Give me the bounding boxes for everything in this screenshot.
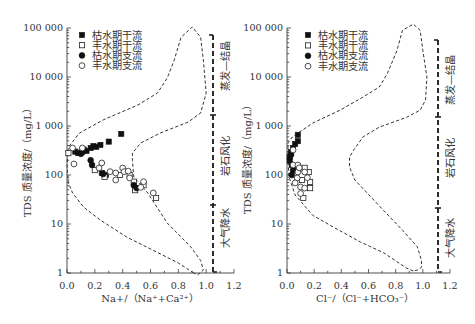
x-tick-label: 0.0 <box>279 280 294 291</box>
y-axis-label: TDS 质量浓度/（mg/L） <box>21 103 33 217</box>
zone-label-rock-weathering: 岩石风化 <box>219 136 231 176</box>
wet-season-tributary-point <box>113 170 119 176</box>
y-tick-label: 100 000 <box>243 22 283 33</box>
legend-label-wet-season-mainstream: 丰水期干流 <box>318 39 368 51</box>
wet-season-tributary-point <box>70 145 76 151</box>
x-tick-label: 0.2 <box>87 280 102 291</box>
legend-label-wet-season-mainstream: 丰水期干流 <box>92 39 142 51</box>
wet-season-tributary-point <box>138 184 144 190</box>
y-tick-label: 1 000 <box>36 120 63 131</box>
legend-label-wet-season-tributary: 丰水期支流 <box>92 59 142 71</box>
y-tick-label: 10 000 <box>249 71 283 82</box>
legend-label-dry-season-mainstream: 枯水期干流 <box>318 29 368 41</box>
dry-season-tributary-point <box>78 151 84 157</box>
y-tick-label: 10 <box>51 218 63 229</box>
wet-season-tributary-point <box>302 185 308 191</box>
legend-marker-dry-season-tributary <box>305 53 311 59</box>
zone-label-atmospheric-precipitation: 大气降水 <box>444 218 456 258</box>
wet-season-tributary-point <box>296 165 302 171</box>
legend-label-dry-season-tributary: 枯水期支流 <box>318 49 368 61</box>
x-tick-label: 1.0 <box>415 280 430 291</box>
x-tick-label: 0.6 <box>143 280 158 291</box>
dry-season-tributary-point <box>89 162 95 168</box>
wet-season-tributary-point <box>96 165 102 171</box>
x-tick-label: 0.4 <box>334 280 349 291</box>
zone-label-rock-weathering: 岩石风化 <box>444 138 456 178</box>
x-tick-label: 0.8 <box>388 280 403 291</box>
x-tick-label: 0.2 <box>307 280 322 291</box>
zone-label-evaporation-crystallization: 蒸发—结晶 <box>444 55 456 105</box>
y-tick-label: 100 <box>45 169 63 180</box>
x-tick-label: 0.8 <box>171 280 186 291</box>
legend-marker-dry-season-mainstream <box>79 32 84 37</box>
wet-season-mainstream-point <box>153 195 158 200</box>
y-tick-label: 10 <box>271 218 283 229</box>
legend-label-dry-season-mainstream: 枯水期干流 <box>92 29 142 41</box>
x-tick-label: 1.2 <box>226 280 241 291</box>
zone-label-evaporation-crystallization: 蒸发—结晶 <box>219 41 231 91</box>
wet-season-tributary-point <box>290 147 296 153</box>
wet-season-tributary-point <box>298 191 304 197</box>
wet-season-tributary-point <box>107 169 113 175</box>
wet-season-tributary-point <box>79 145 85 151</box>
x-tick-label: 1.0 <box>199 280 214 291</box>
dry-season-mainstream-point <box>106 139 111 144</box>
wet-season-tributary-point <box>127 175 133 181</box>
x-axis-label: Na+/（Na⁺+Ca²⁺） <box>101 293 199 304</box>
y-tick-label: 1 <box>277 267 283 278</box>
wet-season-tributary-point <box>304 175 310 181</box>
dry-season-mainstream-point <box>119 131 124 136</box>
legend-marker-dry-season-mainstream <box>305 32 310 37</box>
wet-season-tributary-point <box>71 161 77 167</box>
wet-season-tributary-point <box>113 177 119 183</box>
y-tick-label: 10 000 <box>29 71 63 82</box>
x-tick-label: 0.6 <box>361 280 376 291</box>
wet-season-tributary-point <box>125 168 131 174</box>
legend-marker-wet-season-tributary <box>305 63 311 69</box>
legend-label-wet-season-tributary: 丰水期支流 <box>318 60 368 72</box>
x-tick-label: 0.0 <box>59 280 74 291</box>
legend-label-dry-season-tributary: 枯水期支流 <box>92 49 142 61</box>
zone-label-atmospheric-precipitation: 大气降水 <box>219 208 231 248</box>
wet-season-tributary-point <box>141 179 147 185</box>
legend-marker-wet-season-tributary <box>79 63 85 69</box>
x-tick-label: 1.2 <box>442 280 457 291</box>
y-tick-label: 1 000 <box>256 120 283 131</box>
wet-season-tributary-point <box>302 169 308 175</box>
y-axis-label: TDS 质量浓度/（mg/L） <box>241 100 253 214</box>
wet-season-mainstream-point <box>66 150 71 155</box>
x-axis-label: Cl⁻/（Cl⁻+HCO₃⁻） <box>316 293 414 304</box>
x-tick-label: 0.4 <box>115 280 130 291</box>
wet-season-mainstream-point <box>307 186 312 191</box>
wet-season-tributary-point <box>150 190 156 196</box>
legend-marker-dry-season-tributary <box>79 53 85 59</box>
figure-background <box>0 0 475 324</box>
wet-season-tributary-point <box>292 180 298 186</box>
legend-marker-wet-season-mainstream <box>79 43 84 48</box>
y-tick-label: 100 <box>265 169 283 180</box>
y-tick-label: 100 000 <box>23 22 63 33</box>
y-tick-label: 1 <box>57 267 63 278</box>
dry-season-mainstream-point <box>295 132 300 137</box>
gibbs-diagram-figure: 1101001 00010 000100 0000.00.20.40.60.81… <box>0 0 475 324</box>
legend-marker-wet-season-mainstream <box>305 43 310 48</box>
dry-season-tributary-point <box>100 171 106 177</box>
dry-season-tributary-point <box>289 172 295 178</box>
